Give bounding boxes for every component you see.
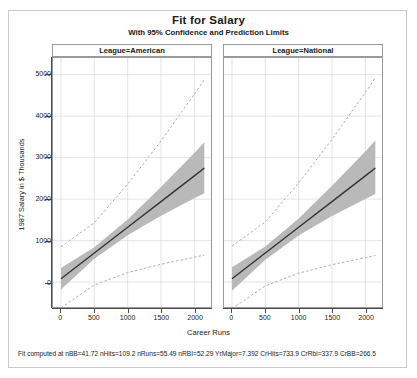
x-tick-mark [94,308,95,313]
panel-header-label: League=American [99,46,165,55]
x-tick-mark [231,308,232,313]
panel-header-label: League=National [273,46,334,55]
x-tick-mark [332,308,333,313]
x-tick-mark [299,308,300,313]
x-tick-label: 2000 [175,314,215,321]
y-tick-label: 1000 [7,237,51,244]
y-tick-label: 0 [7,279,51,286]
page-subtitle: With 95% Confidence and Prediction Limit… [0,28,417,37]
y-axis-ticks: 010002000300040005000 [0,0,51,378]
plot-panel-american [52,57,212,308]
x-axis-line-national [223,308,383,309]
plot-canvas-national [224,58,382,307]
page-title: Fit for Salary [0,14,417,26]
x-tick-mark [195,308,196,313]
fit-footnote: Fit computed at nBB=41.72 nHits=109.2 nR… [18,349,400,358]
x-tick-mark [128,308,129,313]
x-axis-title: Career Runs [0,328,417,337]
y-tick-label: 3000 [7,153,51,160]
y-tick-label: 5000 [7,70,51,77]
y-tick-label: 4000 [7,112,51,119]
x-tick-mark [366,308,367,313]
y-axis-line [51,57,52,308]
y-tick-label: 2000 [7,195,51,202]
chart-page: Fit for Salary With 95% Confidence and P… [0,0,417,378]
x-axis-line-american [52,308,212,309]
panel-header-american: League=American [52,44,212,57]
x-tick-mark [265,308,266,313]
y-axis-title: 1987 Salary in $ Thousands [17,80,26,290]
x-tick-mark [161,308,162,313]
x-tick-mark [60,308,61,313]
plot-canvas-american [53,58,211,307]
panel-header-national: League=National [223,44,383,57]
x-tick-label: 2000 [346,314,386,321]
plot-panel-national [223,57,383,308]
